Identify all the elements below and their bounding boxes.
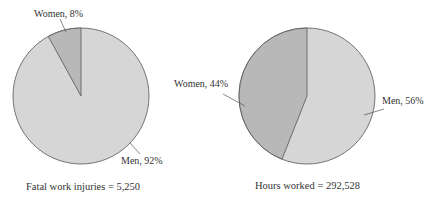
label-men-left: Men, 92% [121,155,163,166]
caption-fatal-injuries: Fatal work injuries = 5,250 [26,181,140,192]
label-women-right: Women, 44% [174,78,228,89]
pie-fatal-injuries: Women, 8% Men, 92% Fatal work injuries =… [13,8,163,192]
label-men-right: Men, 56% [382,95,424,106]
pie-charts: Women, 8% Men, 92% Fatal work injuries =… [0,0,439,199]
pie-hours-worked: Women, 44% Men, 56% Hours worked = 292,5… [174,28,424,191]
caption-hours-worked: Hours worked = 292,528 [255,180,360,191]
leader-men-left [130,143,140,154]
label-women-left: Women, 8% [34,8,83,19]
